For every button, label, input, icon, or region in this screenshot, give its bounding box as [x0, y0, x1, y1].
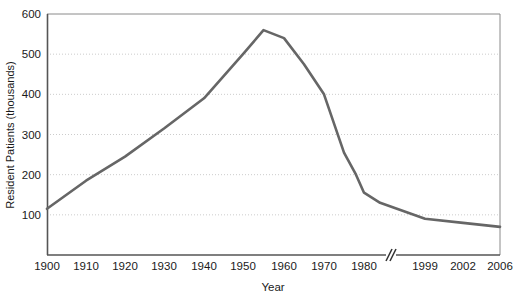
x-tick-label-1940: 1940: [191, 260, 217, 272]
y-axis-tick-labels: 100200300400500600: [22, 8, 41, 221]
x-tick-label-1980: 1980: [351, 260, 377, 272]
y-tick-label-500: 500: [22, 48, 41, 60]
y-tick-label-100: 100: [22, 209, 41, 221]
y-tick-label-600: 600: [22, 8, 41, 20]
x-tick-label-1999: 1999: [412, 260, 438, 272]
y-tick-label-400: 400: [22, 88, 41, 100]
x-axis-title: Year: [261, 281, 284, 293]
y-axis-title: Resident Patients (thousands): [4, 61, 16, 208]
x-tick-label-2002: 2002: [450, 260, 476, 272]
x-tick-label-1910: 1910: [73, 260, 99, 272]
chart-figure: 100200300400500600 190019101920193019401…: [0, 0, 521, 299]
x-tick-label-1920: 1920: [112, 260, 138, 272]
y-tick-label-200: 200: [22, 169, 41, 181]
x-tick-label-1950: 1950: [230, 260, 256, 272]
line-chart-canvas: 100200300400500600 190019101920193019401…: [0, 0, 521, 299]
y-tick-label-300: 300: [22, 129, 41, 141]
x-tick-label-1970: 1970: [311, 260, 337, 272]
x-tick-label-1930: 1930: [151, 260, 177, 272]
x-tick-label-2006: 2006: [487, 260, 513, 272]
x-axis-tick-labels: 1900191019201930194019501960197019801999…: [34, 260, 513, 272]
x-tick-label-1960: 1960: [271, 260, 297, 272]
x-tick-label-1900: 1900: [34, 260, 60, 272]
